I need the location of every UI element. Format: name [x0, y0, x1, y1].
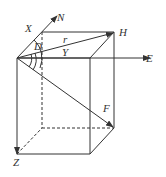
label-n: N — [56, 11, 65, 23]
vector-f — [17, 58, 113, 127]
label-y: Y — [62, 46, 70, 58]
label-f: F — [102, 102, 110, 114]
angle-arc-y-outer — [33, 53, 36, 70]
hidden-edge-bottom-left-depth — [17, 128, 42, 154]
label-e: E — [145, 52, 153, 64]
angle-arc-y-inner — [29, 54, 32, 67]
label-d: D — [33, 40, 42, 52]
label-z: Z — [13, 156, 20, 168]
box-diagram: X N D r Y H E F Z — [0, 0, 166, 177]
label-h: H — [118, 26, 128, 38]
label-x: X — [24, 22, 33, 34]
label-r: r — [63, 33, 68, 45]
edge-bottom-right-depth — [90, 128, 114, 154]
